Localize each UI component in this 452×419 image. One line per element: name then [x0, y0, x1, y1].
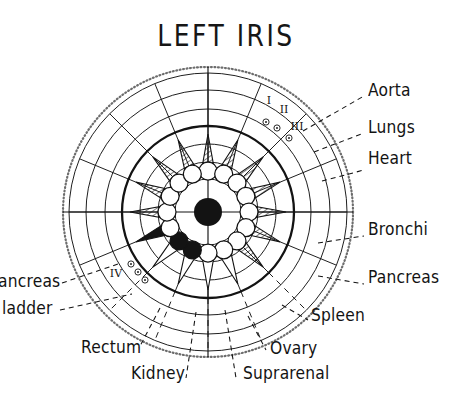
collarette-circle-12 [158, 203, 176, 221]
label-heart: Heart [368, 148, 412, 169]
collarette-circle-4 [240, 203, 258, 221]
label-lungs: Lungs [368, 117, 415, 138]
collarette-circle-7 [215, 241, 233, 259]
sector-numeral-III: III [290, 120, 303, 133]
iris-chart-canvas: LEFT IRIS IIIIIIIV Aorta Lungs Heart Bro… [0, 0, 452, 419]
spoke-outer-5 [287, 245, 336, 265]
leader-suprarenal [225, 310, 236, 378]
sector-dot-center-II-0 [276, 127, 278, 129]
sector-dot-center-I-0 [265, 121, 267, 123]
spoke-outer-11 [80, 245, 129, 265]
sector-dot-center-III-0 [288, 137, 290, 139]
spoke-outer-9 [155, 291, 175, 340]
leader-aorta [303, 96, 364, 131]
sector-dot-center-IV-0 [130, 263, 132, 265]
leader-rectum [139, 308, 160, 348]
collarette-circle-11 [161, 219, 179, 237]
leader-lungs [314, 133, 364, 152]
collarette-circle-0 [199, 162, 217, 180]
collarette-circle-3 [237, 187, 255, 205]
sector-numeral-IV: IV [110, 267, 123, 280]
spoke-outer-7 [241, 291, 261, 340]
pupil [194, 198, 222, 226]
label-aorta: Aorta [368, 80, 411, 101]
collarette-circle-15 [183, 165, 201, 183]
label-pancreas-right: Pancreas [368, 267, 439, 288]
label-spleen: Spleen [311, 305, 365, 326]
label-bronchi: Bronchi [368, 219, 428, 240]
spoke-outer-15 [155, 84, 175, 133]
collarette-circle-8 [199, 244, 217, 262]
label-ovary: Ovary [270, 338, 317, 359]
leader-kidney [186, 312, 196, 378]
label-pancreas-left: ancreas [0, 271, 60, 292]
leader-pancreas [318, 276, 364, 284]
sector-numeral-I: I [267, 94, 271, 107]
spoke-outer-1 [241, 84, 261, 133]
leader-bladder-left [60, 294, 132, 310]
sector-numeral-II: II [280, 103, 289, 116]
iris-diagram: IIIIIIIV [0, 0, 452, 419]
sector-dot-center-IV-2 [144, 279, 146, 281]
label-rectum: Rectum [81, 337, 141, 358]
label-kidney: Kidney [131, 363, 185, 384]
sector-dot-center-IV-1 [137, 271, 139, 273]
label-bladder: ladder [2, 298, 53, 319]
diagram-geometry: IIIIIIIV [60, 67, 364, 378]
spoke-outer-3 [287, 159, 336, 179]
spoke-outer-13 [80, 159, 129, 179]
label-suprarenal: Suprarenal [243, 363, 330, 384]
leader-bronchi [318, 236, 364, 243]
